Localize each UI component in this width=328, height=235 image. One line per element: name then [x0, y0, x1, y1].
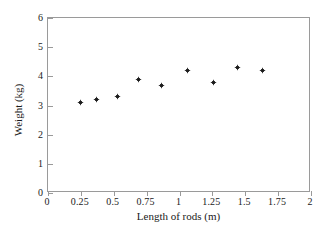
- data-point-marker: [259, 67, 266, 74]
- y-axis-tick: [48, 135, 53, 136]
- y-axis-tick: [48, 106, 53, 107]
- data-points-layer: [48, 18, 309, 191]
- y-axis-tick-label: 3: [30, 99, 43, 110]
- y-axis-title: Weight (kg): [12, 50, 24, 170]
- y-axis-tick-label: 0: [30, 187, 43, 198]
- x-axis-tick-label: 1.75: [268, 196, 286, 207]
- x-axis-title: Length of rods (m): [47, 210, 310, 222]
- scatter-chart-figure: Length of rods (m) Weight (kg) 00.250.50…: [0, 0, 328, 235]
- y-axis-tick: [48, 76, 53, 77]
- data-point-marker: [184, 67, 191, 74]
- data-point-marker: [93, 96, 100, 103]
- data-point-marker: [114, 93, 121, 100]
- y-axis-tick-label: 5: [30, 41, 43, 52]
- x-axis-tick-label: 2: [307, 196, 312, 207]
- x-axis-tick-label: 1.25: [202, 196, 220, 207]
- data-point-marker: [77, 99, 84, 106]
- x-axis-tick-label: 0.25: [71, 196, 89, 207]
- data-point-marker: [158, 82, 165, 89]
- y-axis-tick: [48, 193, 53, 194]
- data-point-marker: [234, 64, 241, 71]
- y-axis-tick-label: 4: [30, 70, 43, 81]
- x-axis-tick-label: 0: [44, 196, 49, 207]
- y-axis-tick-label: 1: [30, 157, 43, 168]
- x-axis-tick-label: 0.5: [106, 196, 119, 207]
- y-axis-tick: [48, 18, 53, 19]
- x-axis-tick-label: 1: [176, 196, 181, 207]
- plot-area: [47, 17, 310, 192]
- x-axis-tick-label: 0.75: [136, 196, 154, 207]
- data-point-marker: [135, 76, 142, 83]
- y-axis-tick: [48, 164, 53, 165]
- y-axis-tick: [48, 47, 53, 48]
- data-point-marker: [210, 79, 217, 86]
- y-axis-tick-label: 2: [30, 128, 43, 139]
- x-axis-tick-label: 1.5: [238, 196, 251, 207]
- y-axis-tick-label: 6: [30, 12, 43, 23]
